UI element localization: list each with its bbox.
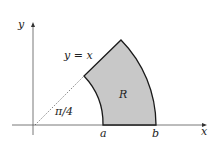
outer-radius-label: b: [152, 127, 159, 140]
x-axis-label: x: [201, 125, 208, 138]
y-axis-label: y: [17, 18, 25, 31]
region-label: R: [118, 88, 127, 101]
y-axis-arrow-icon: [31, 22, 35, 27]
line-label: y = x: [63, 49, 93, 62]
inner-radius-label: a: [100, 127, 107, 140]
angle-label: π/4: [54, 105, 73, 118]
region-r: [84, 40, 156, 125]
polar-region-diagram: y x y = x π/4 R a b: [0, 0, 213, 146]
